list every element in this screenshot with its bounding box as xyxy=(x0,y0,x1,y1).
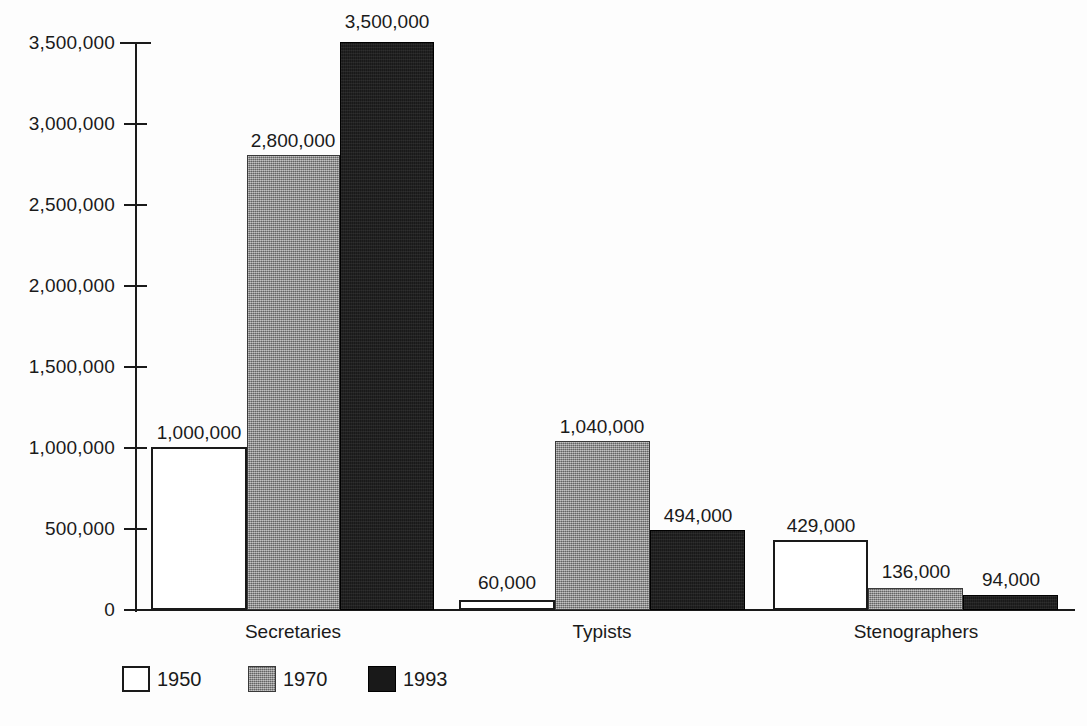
bar-secretaries-1950[interactable] xyxy=(151,447,247,610)
bar-label-typists-1970: 1,040,000 xyxy=(532,417,672,436)
bar-label-typists-1993: 494,000 xyxy=(628,506,768,525)
category-label-typists: Typists xyxy=(532,622,672,641)
legend-swatch-1993-icon xyxy=(368,666,396,692)
legend: 1950 1970 1993 xyxy=(0,664,1087,704)
source-strip-clipped xyxy=(8,715,428,726)
bar-stenographers-1993[interactable] xyxy=(963,595,1058,610)
legend-entry-1950[interactable]: 1950 xyxy=(122,664,202,694)
y-tick-2500000 xyxy=(124,204,147,206)
bar-secretaries-1993[interactable] xyxy=(340,42,434,610)
y-tick-label-1500000: 1,500,000 xyxy=(0,357,115,376)
legend-label-1970: 1970 xyxy=(283,669,328,689)
y-tick-label-3500000: 3,500,000 xyxy=(0,33,115,52)
legend-entry-1970[interactable]: 1970 xyxy=(248,664,328,694)
y-tick-label-0: 0 xyxy=(0,600,115,619)
y-tick-500000 xyxy=(124,528,147,530)
bar-secretaries-1970[interactable] xyxy=(247,155,340,610)
y-tick-1500000 xyxy=(124,366,147,368)
bar-stenographers-1970[interactable] xyxy=(868,588,963,610)
y-tick-1000000 xyxy=(124,447,147,449)
bar-label-secretaries-1993: 3,500,000 xyxy=(317,12,457,31)
bar-label-stenographers-1950: 429,000 xyxy=(751,516,891,535)
legend-label-1950: 1950 xyxy=(157,669,202,689)
y-tick-label-500000: 500,000 xyxy=(0,519,115,538)
plot-area: 3,500,000 3,000,000 2,500,000 2,000,000 … xyxy=(0,0,1087,726)
legend-swatch-1950-icon xyxy=(122,666,150,692)
legend-entry-1993[interactable]: 1993 xyxy=(368,664,448,694)
bar-typists-1993[interactable] xyxy=(650,530,745,610)
y-axis-line xyxy=(135,42,137,612)
y-tick-2000000 xyxy=(124,285,147,287)
y-tick-3000000 xyxy=(124,123,147,125)
category-label-stenographers: Stenographers xyxy=(846,622,986,641)
y-tick-label-2500000: 2,500,000 xyxy=(0,195,115,214)
y-tick-label-2000000: 2,000,000 xyxy=(0,276,115,295)
legend-label-1993: 1993 xyxy=(403,669,448,689)
y-tick-3500000 xyxy=(120,42,151,44)
legend-swatch-1970-icon xyxy=(248,666,276,692)
y-tick-label-1000000: 1,000,000 xyxy=(0,438,115,457)
category-label-secretaries: Secretaries xyxy=(223,622,363,641)
y-tick-label-3000000: 3,000,000 xyxy=(0,114,115,133)
bar-typists-1950[interactable] xyxy=(459,600,555,610)
bar-chart: 3,500,000 3,000,000 2,500,000 2,000,000 … xyxy=(0,0,1087,726)
bar-typists-1970[interactable] xyxy=(555,441,650,610)
bar-label-stenographers-1993: 94,000 xyxy=(941,570,1081,589)
